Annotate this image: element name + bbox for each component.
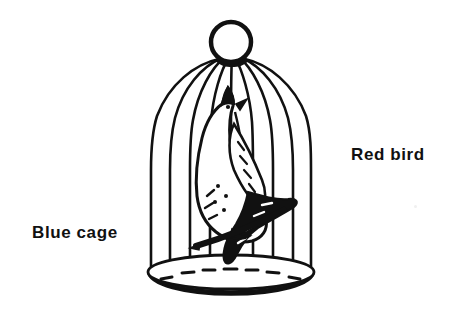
label-blue-cage: Blue cage <box>32 224 118 241</box>
bird-eye <box>226 105 230 109</box>
label-red-bird: Red bird <box>351 146 425 163</box>
floor-dash-2 <box>182 272 194 273</box>
scan-artifact-speck <box>414 205 417 208</box>
speckle-4 <box>222 208 226 212</box>
speckle-2 <box>224 194 228 198</box>
floor-dash-7 <box>289 277 300 279</box>
floor-dash-1 <box>161 277 172 279</box>
floor-dash-6 <box>267 272 279 273</box>
speckle-1 <box>216 184 220 188</box>
figure-root: Blue cage Red bird <box>0 0 459 324</box>
cage-finial-ring <box>211 22 251 62</box>
